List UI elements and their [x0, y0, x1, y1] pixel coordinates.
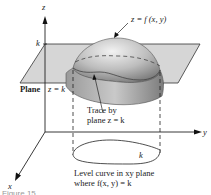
- x-axis: [18, 132, 45, 176]
- z-axis-label: z: [42, 3, 45, 12]
- trace-label-line1: Trace by: [87, 106, 117, 115]
- x-axis-arrow-icon: [15, 173, 21, 182]
- diagram-graphics: [0, 0, 211, 195]
- k-tick-label: k: [36, 39, 40, 48]
- plane-equation: z = k: [48, 85, 65, 94]
- level-curve-caption-line2: where f(x, y) = k: [74, 178, 131, 188]
- y-axis-arrow-icon: [194, 130, 202, 135]
- level-curve-caption-line1: Level curve in xy plane: [74, 168, 154, 178]
- plane-label: Plane: [20, 85, 40, 94]
- z-axis-arrow-icon: [43, 16, 48, 24]
- surface-label: z = f (x, y): [131, 15, 166, 24]
- level-curve: [73, 140, 160, 164]
- level-curve-k: k: [139, 151, 143, 160]
- level-curve-diagram: z k y x z = f (x, y) Plane z = k Trace b…: [0, 0, 211, 195]
- trace-label-line2: plane z = k: [87, 116, 125, 125]
- y-axis-label: y: [203, 128, 207, 137]
- figure-number: Figure 15: [2, 190, 36, 195]
- surface-pointer: [116, 23, 128, 35]
